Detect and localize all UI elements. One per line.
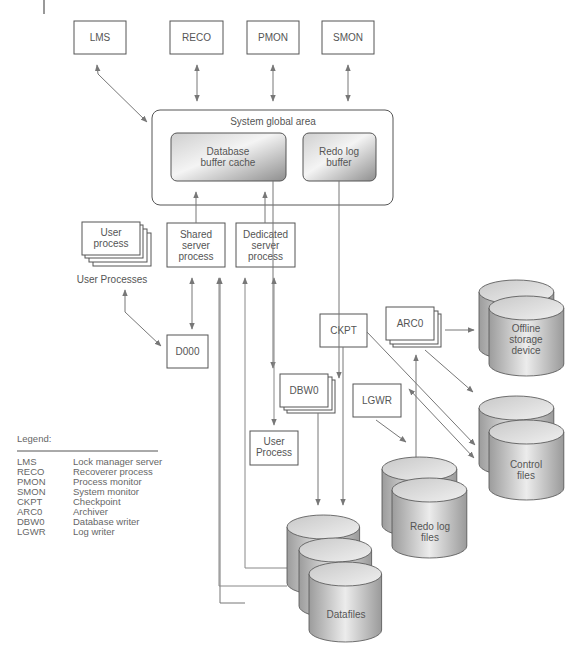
ckpt-box: CKPT [320,314,367,347]
svg-text:Dedicated: Dedicated [243,229,288,240]
svg-text:Process: Process [256,447,292,458]
redo-log-buffer: Redo log buffer [303,133,376,181]
svg-text:process: process [248,251,283,262]
svg-text:LGWR: LGWR [17,526,46,537]
svg-text:buffer: buffer [326,157,352,168]
svg-text:Database: Database [207,146,250,157]
lgwr-box: LGWR [353,384,401,417]
svg-text:server: server [182,240,210,251]
datafiles: Datafiles [287,515,382,642]
svg-text:files: files [421,532,439,543]
control-files: Control files [479,396,564,500]
user-processes-caption: User Processes [77,274,148,285]
pmon-box: PMON [247,21,299,54]
svg-text:files: files [517,470,535,481]
svg-text:Datafiles: Datafiles [327,609,366,620]
reco-box: RECO [170,21,223,54]
svg-text:User: User [100,227,122,238]
svg-text:storage: storage [509,334,543,345]
svg-text:D000: D000 [176,346,200,357]
arc0-stack: ARC0 [386,307,441,347]
svg-text:process: process [93,238,128,249]
shared-server-process: Shared server process [167,223,225,267]
svg-text:Redo log: Redo log [319,146,359,157]
svg-text:CKPT: CKPT [330,325,357,336]
svg-text:Offline: Offline [512,323,541,334]
svg-text:DBW0: DBW0 [290,385,319,396]
dbw0-stack: DBW0 [280,374,335,413]
database-buffer-cache: Database buffer cache [171,133,286,181]
oracle-architecture-diagram: LMS RECO PMON SMON System global area Da… [0,0,581,655]
redo-log-files: Redo log files [382,457,467,558]
lms-label: LMS [90,32,111,43]
svg-text:LGWR: LGWR [362,395,392,406]
svg-text:User: User [263,436,285,447]
legend-entry: LGWR Log writer [17,526,115,537]
svg-text:ARC0: ARC0 [397,318,424,329]
legend: Legend: LMS Lock manager server RECO Rec… [17,433,162,537]
user-process-box: User Process [250,431,298,465]
svg-text:device: device [512,345,541,356]
smon-box: SMON [322,21,374,54]
d000-box: D000 [167,335,208,368]
svg-text:Shared: Shared [180,229,212,240]
dedicated-server-process: Dedicated server process [236,223,295,267]
svg-text:server: server [252,240,280,251]
lms-box: LMS [74,21,126,54]
legend-title: Legend: [17,433,51,444]
pmon-label: PMON [258,32,288,43]
svg-text:process: process [178,251,213,262]
svg-text:Log writer: Log writer [73,526,115,537]
svg-text:Redo log: Redo log [410,521,450,532]
user-process-stack: User process [82,222,151,266]
reco-label: RECO [182,32,211,43]
svg-text:buffer cache: buffer cache [201,157,256,168]
offline-storage-device: Offline storage device [479,280,564,376]
svg-text:Control: Control [510,459,542,470]
smon-label: SMON [333,32,363,43]
sga-title: System global area [230,116,316,127]
